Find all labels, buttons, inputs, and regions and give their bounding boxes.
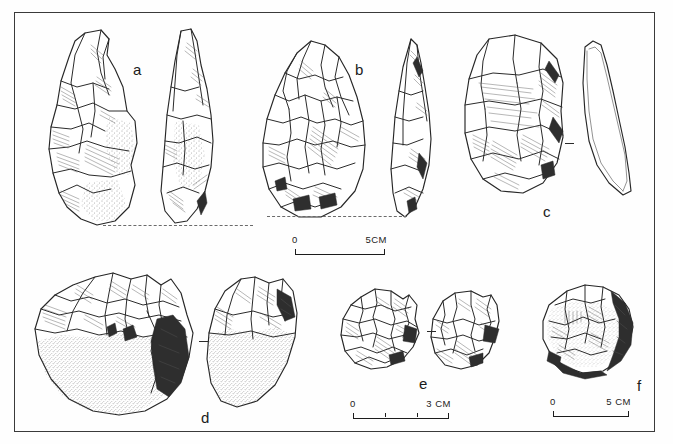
figure-a-drawing bbox=[31, 25, 236, 235]
figure-c-center-tick bbox=[565, 143, 574, 144]
figure-d-view-face bbox=[35, 273, 193, 415]
figure-f bbox=[531, 281, 661, 391]
figure-label-e: e bbox=[419, 375, 428, 392]
figure-e-view-face bbox=[341, 289, 419, 369]
figure-label-a: a bbox=[133, 61, 142, 78]
scale-bl-max-label: 3 CM bbox=[426, 398, 451, 409]
scale-bl-bar bbox=[353, 413, 449, 419]
scale-top-max-label: 5CM bbox=[365, 234, 387, 245]
figure-a-view-profile bbox=[161, 29, 213, 223]
figure-d-center-tick bbox=[199, 341, 208, 342]
scale-bl-zero-label: 0 bbox=[350, 398, 356, 409]
figure-a-view-face bbox=[49, 30, 137, 225]
figure-d bbox=[21, 271, 311, 421]
figure-b-view-face bbox=[263, 41, 365, 217]
scale-br-zero-label: 0 bbox=[550, 396, 556, 407]
plate-frame: a bbox=[14, 12, 655, 432]
figure-label-d: d bbox=[201, 409, 210, 426]
scale-bl-tick-2 bbox=[417, 413, 418, 417]
figure-b bbox=[255, 35, 445, 235]
figure-d-drawing bbox=[21, 271, 311, 421]
figure-label-f: f bbox=[637, 377, 642, 394]
figure-a bbox=[31, 25, 236, 235]
figure-label-b: b bbox=[355, 61, 364, 78]
artifact-plate: a bbox=[0, 0, 673, 444]
scale-top-bar bbox=[295, 249, 385, 255]
figure-b-drawing bbox=[255, 35, 445, 235]
figure-e-center-tick bbox=[427, 331, 436, 332]
figure-label-c: c bbox=[543, 203, 551, 220]
figure-f-drawing bbox=[531, 281, 661, 391]
figure-c-view-profile bbox=[583, 41, 631, 195]
figure-c bbox=[445, 31, 645, 221]
figure-f-view-face bbox=[543, 285, 633, 379]
baseline-b bbox=[267, 216, 407, 217]
figure-c-drawing bbox=[445, 31, 645, 221]
scale-top-zero-label: 0 bbox=[292, 234, 298, 245]
scale-br-max-label: 5 CM bbox=[606, 396, 631, 407]
baseline-a bbox=[103, 225, 253, 226]
scale-bl-tick-1 bbox=[385, 413, 386, 417]
figure-e-view-profile bbox=[431, 291, 499, 369]
figure-c-view-face bbox=[465, 35, 563, 193]
scale-br-bar bbox=[553, 411, 629, 417]
figure-e bbox=[333, 285, 503, 385]
figure-e-drawing bbox=[333, 285, 503, 385]
figure-b-view-profile bbox=[391, 39, 431, 217]
figure-d-view-profile bbox=[207, 277, 297, 407]
